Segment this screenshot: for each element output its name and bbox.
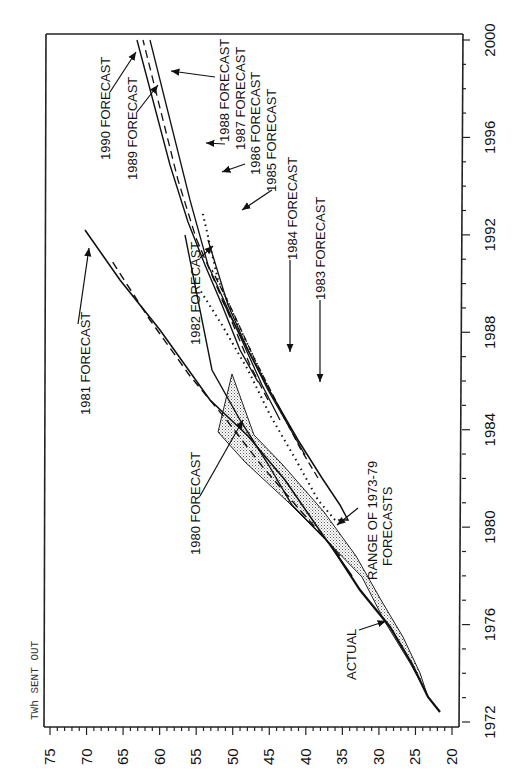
year-tick-label: 2000: [481, 23, 498, 56]
twh-tick-label: 55: [187, 748, 204, 765]
year-tick-label: 1988: [481, 316, 498, 349]
twh-tick-label: 30: [370, 748, 387, 765]
label-1983-forecast: 1983 FORECAST: [313, 197, 328, 300]
twh-axis: 757065605550454035302520: [41, 727, 460, 765]
twh-tick-label: 45: [260, 748, 277, 765]
year-tick-label: 1992: [481, 218, 498, 251]
series-1987-forecast: [202, 210, 290, 428]
twh-tick-label: 65: [114, 748, 131, 765]
twh-tick-label: 50: [224, 748, 241, 765]
twh-tick-label: 60: [151, 748, 168, 765]
label-1981-forecast: 1981 FORECAST: [78, 312, 93, 415]
year-axis: 19721976198019841988199219962000: [462, 23, 498, 738]
twh-tick-label: 75: [41, 748, 58, 765]
year-tick-label: 1996: [481, 121, 498, 154]
twh-tick-label: 25: [406, 748, 423, 765]
twh-tick-label: 70: [78, 748, 95, 765]
label-1990-forecast: 1990 FORECAST: [98, 57, 113, 160]
label-1988-forecast: 1988 FORECAST: [217, 39, 232, 142]
label-range-line2: FORECASTS: [380, 486, 395, 566]
twh-tick-label: 40: [297, 748, 314, 765]
annotation-labels: 1990 FORECAST 1989 FORECAST 1988 FORECAS…: [78, 39, 395, 680]
year-tick-label: 1980: [481, 510, 498, 543]
label-1985-forecast: 1985 FORECAST: [264, 89, 279, 192]
twh-tick-label: 20: [443, 748, 460, 765]
axis-label-twh: TWh SENT OUT: [29, 640, 41, 720]
twh-tick-label: 35: [333, 748, 350, 765]
year-tick-label: 1972: [481, 705, 498, 738]
forecast-chart: 757065605550454035302520 197219761980198…: [0, 0, 517, 782]
label-1980-forecast: 1980 FORECAST: [188, 452, 203, 555]
label-range-line1: RANGE OF 1973-79: [365, 461, 380, 580]
label-1982-forecast: 1982 FORECAST: [188, 242, 203, 345]
label-1987-forecast: 1987 FORECAST: [233, 47, 248, 150]
year-tick-label: 1984: [481, 413, 498, 446]
label-actual: ACTUAL: [344, 629, 359, 680]
label-1984-forecast: 1984 FORECAST: [285, 157, 300, 260]
series-1983-forecast: [200, 290, 335, 520]
label-1989-forecast: 1989 FORECAST: [125, 77, 140, 180]
year-tick-label: 1976: [481, 608, 498, 641]
label-1986-forecast: 1986 FORECAST: [248, 72, 263, 175]
